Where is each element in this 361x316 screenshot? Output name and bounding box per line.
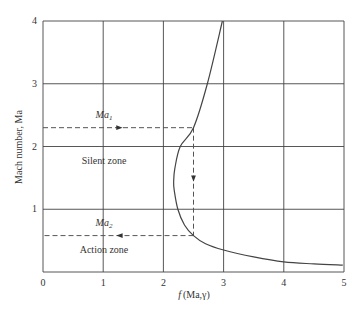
arrow-left-icon <box>116 233 122 238</box>
y-tick-label: 1 <box>32 203 37 214</box>
data-curve <box>174 21 343 265</box>
arrow-down-icon <box>191 175 196 181</box>
x-tick-label: 2 <box>161 277 166 288</box>
arrow-right-icon <box>116 125 122 130</box>
x-tick-label: 1 <box>101 277 106 288</box>
action-zone-label: Action zone <box>80 244 129 255</box>
y-tick-label: 4 <box>32 15 37 26</box>
ma2-label: Ma2 <box>95 217 113 230</box>
chart: 0123451234 Mach number, Ma f(Ma,γ) Ma1 S… <box>0 0 361 316</box>
x-tick-label: 3 <box>221 277 226 288</box>
y-tick-label: 3 <box>32 78 37 89</box>
annotations <box>43 125 196 238</box>
x-tick-label: 0 <box>41 277 46 288</box>
y-axis-label: Mach number, Ma <box>13 110 24 184</box>
x-tick-label: 4 <box>281 277 286 288</box>
x-axis-label: f(Ma,γ) <box>178 289 210 301</box>
y-tick-label: 2 <box>32 141 37 152</box>
x-tick-label: 5 <box>342 277 347 288</box>
silent-zone-label: Silent zone <box>82 155 127 166</box>
